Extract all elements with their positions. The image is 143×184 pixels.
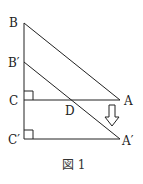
label-c-prime: C′ <box>8 133 20 147</box>
label-c: C <box>9 94 18 108</box>
segment-b-a <box>24 23 120 100</box>
figure-1-diagram: B B′ C C′ A A′ D 図 1 <box>0 0 143 184</box>
label-d: D <box>65 104 75 118</box>
right-angle-mark-c <box>24 91 33 100</box>
figure-caption: 図 1 <box>62 158 85 172</box>
label-a-prime: A′ <box>121 134 134 148</box>
label-a: A <box>123 94 133 108</box>
right-angle-mark-c-prime <box>24 130 33 139</box>
label-b-prime: B′ <box>8 56 20 70</box>
down-arrow-icon <box>105 105 119 126</box>
label-b: B <box>9 16 18 30</box>
